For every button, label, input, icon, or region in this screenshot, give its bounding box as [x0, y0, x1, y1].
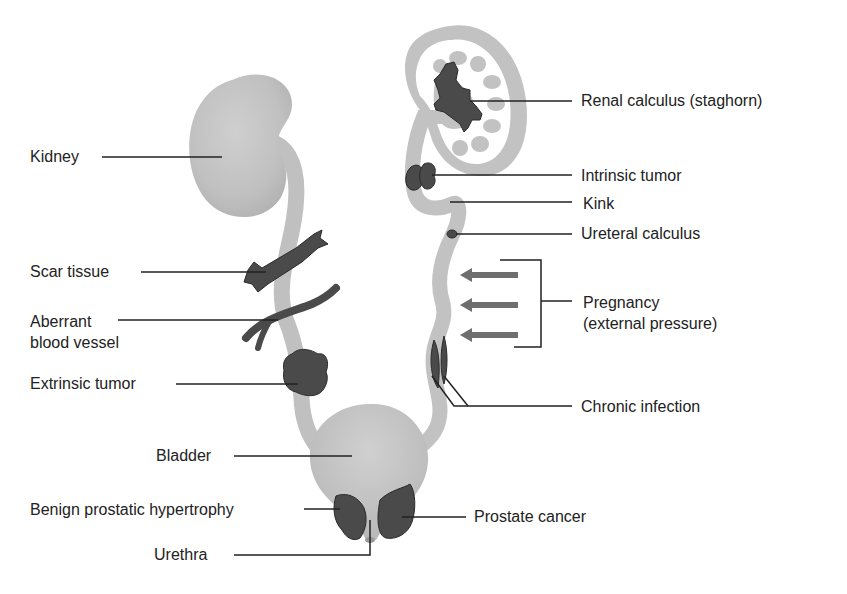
label-aberrant-line2: blood vessel: [30, 332, 119, 353]
label-prostate-cancer: Prostate cancer: [474, 507, 586, 527]
label-chronic-infection: Chronic infection: [581, 397, 700, 417]
ureteral-calculus: [447, 230, 457, 238]
label-pregnancy: Pregnancy (external pressure): [583, 292, 717, 334]
label-bladder: Bladder: [156, 446, 211, 466]
label-kidney: Kidney: [30, 147, 79, 167]
label-scar-tissue: Scar tissue: [30, 262, 109, 282]
label-aberrant-line1: Aberrant: [30, 311, 119, 332]
extrinsic-tumor: [283, 349, 327, 395]
label-pregnancy-line2: (external pressure): [583, 313, 717, 334]
label-ureteral-calculus: Ureteral calculus: [581, 224, 700, 244]
label-renal-calculus: Renal calculus (staghorn): [581, 91, 762, 111]
label-pregnancy-line1: Pregnancy: [583, 292, 717, 313]
label-intrinsic-tumor: Intrinsic tumor: [581, 166, 681, 186]
external-pressure-arrows: [460, 268, 518, 342]
label-kink: Kink: [583, 194, 614, 214]
left-kidney: [189, 74, 292, 217]
label-urethra: Urethra: [154, 545, 207, 565]
label-aberrant-blood-vessel: Aberrant blood vessel: [30, 311, 119, 353]
label-extrinsic-tumor: Extrinsic tumor: [30, 374, 136, 394]
label-bph: Benign prostatic hypertrophy: [30, 500, 234, 520]
